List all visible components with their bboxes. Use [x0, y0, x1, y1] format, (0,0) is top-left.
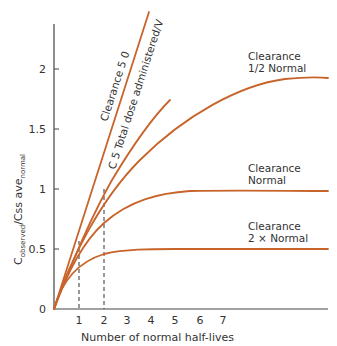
label-double-normal-line2: 2 × Normal: [248, 232, 308, 244]
x-tick-label: 6: [197, 314, 204, 327]
x-tick-label: 2: [101, 314, 108, 327]
x-tick-label: 5: [172, 314, 179, 327]
label-half-normal-line1: Clearance: [248, 50, 301, 62]
label-double-normal-line1: Clearance: [248, 220, 301, 232]
curve-half-normal: [54, 77, 328, 309]
y-tick-label: 0.5: [29, 243, 47, 256]
x-ticks: 1 2 3 4 5 6 7: [76, 314, 227, 327]
chart: 2 1.5 1 0.5 0 1 2 3 4 5 6 7 Number of no…: [0, 0, 337, 346]
y-tick-label: 1: [39, 183, 46, 196]
y-tick-label: 1.5: [29, 123, 47, 136]
curve-clearance-zero: [54, 12, 149, 309]
label-normal-line2: Normal: [248, 174, 286, 186]
y-tick-label: 0: [39, 303, 46, 316]
x-axis-title: Number of normal half-lives: [81, 331, 234, 344]
label-normal-line1: Clearance: [248, 162, 301, 174]
x-tick-label: 4: [148, 314, 155, 327]
label-half-normal-line2: 1/2 Normal: [248, 62, 306, 74]
curve-double-normal: [54, 249, 328, 309]
x-tick-label: 3: [124, 314, 131, 327]
x-tick-label: 7: [220, 314, 227, 327]
curve-total-dose: [54, 100, 170, 309]
y-axis-title: Cobserved/Css avenormal: [12, 154, 27, 265]
x-tick-label: 1: [76, 314, 83, 327]
y-tick-label: 2: [39, 63, 46, 76]
